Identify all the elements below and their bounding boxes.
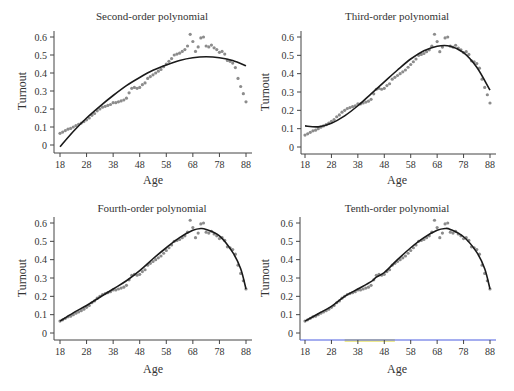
data-point (122, 286, 125, 289)
x-tick-label: 58 (406, 159, 416, 170)
x-tick-label: 38 (353, 159, 363, 170)
panel-title: Fourth-order polynomial (97, 202, 206, 214)
data-point (488, 101, 491, 104)
scatter-points (58, 33, 247, 135)
x-tick-label: 58 (406, 346, 416, 357)
y-tick-label: 0.1 (35, 122, 48, 133)
data-point (220, 50, 223, 53)
x-tick-label: 78 (459, 159, 469, 170)
y-tick-label: 0.6 (35, 32, 48, 43)
data-point (141, 270, 144, 273)
data-point (242, 92, 245, 95)
data-point (446, 35, 449, 38)
data-point (393, 76, 396, 79)
x-tick-label: 78 (214, 346, 224, 357)
figure-root: Second-order polynomial Age Turnout 00.1… (0, 0, 514, 391)
y-tick-label: 0.4 (282, 68, 295, 79)
data-point (159, 254, 162, 257)
data-point (335, 115, 338, 118)
data-point (454, 44, 457, 47)
data-point (436, 40, 439, 43)
data-point (138, 86, 141, 89)
data-point (483, 86, 486, 89)
y-tick-label: 0.5 (281, 236, 294, 247)
x-tick-label: 68 (188, 346, 198, 357)
x-tick-label: 48 (379, 346, 389, 357)
data-point (202, 35, 205, 38)
data-point (396, 74, 399, 77)
data-point (406, 66, 409, 69)
y-tick-label: 0.3 (35, 273, 48, 284)
data-point (215, 48, 218, 51)
data-point (159, 68, 162, 71)
x-tick-label: 28 (326, 346, 336, 357)
y-tick-label: 0.2 (35, 291, 48, 302)
x-tick-label: 78 (214, 159, 224, 170)
y-tick-label: 0.6 (281, 218, 294, 229)
data-point (409, 63, 412, 66)
x-tick-label: 18 (300, 159, 310, 170)
data-point (191, 226, 194, 229)
data-point (127, 91, 130, 94)
data-point (197, 45, 200, 48)
data-point (210, 44, 213, 47)
y-tick-label: 0.4 (35, 254, 48, 265)
x-tick-label: 38 (108, 159, 118, 170)
data-point (343, 109, 346, 112)
data-point (465, 50, 468, 53)
y-tick-label: 0.2 (282, 105, 295, 116)
data-point (154, 258, 157, 261)
data-point (401, 70, 404, 73)
data-point (167, 60, 170, 63)
data-point (178, 52, 181, 55)
y-tick-label: 0.6 (35, 218, 48, 229)
data-point (441, 231, 444, 234)
data-point (122, 98, 125, 101)
y-tick-label: 0.4 (281, 254, 294, 265)
y-axis-label: Turnout (15, 71, 29, 110)
panel-title: Second-order polynomial (96, 10, 208, 22)
data-point (202, 221, 205, 224)
x-axis-label: Age (143, 362, 163, 376)
y-tick-label: 0 (288, 328, 293, 339)
data-point (223, 53, 226, 56)
data-point (412, 60, 415, 63)
y-tick-label: 0.1 (282, 123, 295, 134)
y-tick-label: 0.2 (281, 291, 294, 302)
data-point (433, 33, 436, 36)
data-point (149, 75, 152, 78)
data-point (186, 44, 189, 47)
data-point (446, 221, 449, 224)
data-point (154, 71, 157, 74)
y-tick-label: 0.4 (35, 68, 48, 79)
y-tick-label: 0.5 (35, 236, 48, 247)
data-point (125, 97, 128, 100)
data-point (213, 46, 216, 49)
fit-curve (60, 57, 246, 147)
data-point (181, 50, 184, 53)
data-point (234, 66, 237, 69)
x-tick-label: 28 (82, 346, 92, 357)
x-tick-label: 88 (241, 159, 251, 170)
data-point (367, 286, 370, 289)
y-axis-label: Turnout (258, 72, 272, 111)
x-tick-label: 48 (135, 346, 145, 357)
x-tick-label: 28 (82, 159, 92, 170)
data-point (109, 103, 112, 106)
y-tick-label: 0 (42, 328, 47, 339)
data-point (414, 57, 417, 60)
data-point (422, 52, 425, 55)
data-point (367, 100, 370, 103)
x-tick-label: 68 (188, 159, 198, 170)
y-axis-label: Turnout (258, 258, 272, 297)
x-tick-label: 88 (485, 159, 495, 170)
x-tick-label: 48 (379, 159, 389, 170)
x-tick-label: 28 (326, 159, 336, 170)
data-point (369, 98, 372, 101)
data-point (189, 33, 192, 36)
panel-title: Third-order polynomial (345, 10, 449, 22)
x-axis-label: Age (387, 362, 407, 376)
x-tick-label: 68 (432, 159, 442, 170)
data-point (194, 236, 197, 239)
data-point (391, 78, 394, 81)
